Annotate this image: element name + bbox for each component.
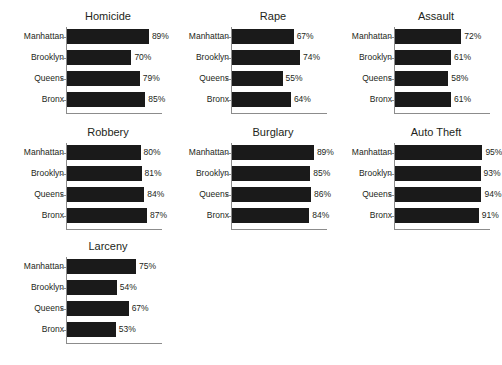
bar-row: Bronx91% <box>328 206 492 227</box>
axis-tick <box>226 216 231 217</box>
bar-value-label: 91% <box>482 210 499 221</box>
bar-row: Brooklyn81% <box>0 164 164 185</box>
facet-title: Homicide <box>0 10 164 23</box>
facet-title-text: Robbery <box>35 126 129 139</box>
category-label: Queens <box>362 189 392 200</box>
bar <box>232 92 291 107</box>
bar-row: Bronx85% <box>0 90 164 111</box>
facet-panel: BurglaryManhattan89%Brooklyn85%Queens86%… <box>165 122 329 240</box>
facet-title: Rape <box>165 10 329 23</box>
axis-tick <box>61 216 66 217</box>
category-label: Brooklyn <box>359 52 392 63</box>
bar <box>67 29 149 44</box>
bar-row: Bronx53% <box>0 320 164 341</box>
bar-value-label: 67% <box>297 31 314 42</box>
category-label: Brooklyn <box>196 52 229 63</box>
facet-title: Robbery <box>0 126 164 139</box>
bar-value-label: 93% <box>484 168 501 179</box>
plot-area: Manhattan75%Brooklyn54%Queens67%Bronx53% <box>0 257 164 349</box>
plot-area: Manhattan89%Brooklyn85%Queens86%Bronx84% <box>165 143 329 235</box>
bar-row: Bronx61% <box>328 90 492 111</box>
facet-title-text: Larceny <box>36 240 127 253</box>
bar <box>395 145 482 160</box>
facet-title-text: Assault <box>366 10 454 23</box>
bar <box>67 208 147 223</box>
bar-row: Queens79% <box>0 69 164 90</box>
bar-row: Brooklyn70% <box>0 48 164 69</box>
bar-value-label: 84% <box>312 210 329 221</box>
facet-panel: Auto TheftManhattan95%Brooklyn93%Queens9… <box>328 122 492 240</box>
bar-value-label: 81% <box>145 168 162 179</box>
bar <box>232 71 283 86</box>
bar <box>395 50 451 65</box>
bar-value-label: 54% <box>120 282 137 293</box>
bar <box>67 280 117 295</box>
category-label: Manhattan <box>352 31 392 42</box>
axis-tick <box>226 79 231 80</box>
bar-value-label: 53% <box>119 324 136 335</box>
facet-panel: RapeManhattan67%Brooklyn74%Queens55%Bron… <box>165 6 329 124</box>
bar <box>67 166 142 181</box>
bar-row: Manhattan67% <box>165 27 329 48</box>
category-label: Queens <box>199 73 229 84</box>
bar-value-label: 64% <box>294 94 311 105</box>
axis-tick <box>389 58 394 59</box>
bar <box>67 92 145 107</box>
bar <box>395 29 461 44</box>
facet-title: Assault <box>328 10 492 23</box>
facet-panel: AssaultManhattan72%Brooklyn61%Queens58%B… <box>328 6 492 124</box>
bar-value-label: 74% <box>303 52 320 63</box>
axis-tick <box>61 195 66 196</box>
bar <box>67 145 141 160</box>
bar <box>395 166 481 181</box>
bar-value-label: 58% <box>451 73 468 84</box>
bar <box>67 187 144 202</box>
bar <box>395 208 479 223</box>
plot-area: Manhattan95%Brooklyn93%Queens94%Bronx91% <box>328 143 492 235</box>
facet-title-text: Homicide <box>33 10 131 23</box>
axis-tick <box>61 174 66 175</box>
bar-value-label: 80% <box>144 147 161 158</box>
axis-tick <box>61 37 66 38</box>
x-axis-line <box>66 113 162 114</box>
bar-value-label: 84% <box>147 189 164 200</box>
axis-tick <box>61 267 66 268</box>
facet-title-text: Auto Theft <box>359 126 462 139</box>
axis-tick <box>226 100 231 101</box>
facet-panel: LarcenyManhattan75%Brooklyn54%Queens67%B… <box>0 236 164 354</box>
axis-tick <box>226 58 231 59</box>
bar-value-label: 55% <box>286 73 303 84</box>
axis-tick <box>61 79 66 80</box>
bar-row: Queens58% <box>328 69 492 90</box>
bar <box>395 92 451 107</box>
axis-tick <box>61 330 66 331</box>
category-label: Brooklyn <box>31 282 64 293</box>
axis-tick <box>61 58 66 59</box>
bar <box>67 50 131 65</box>
facet-title: Auto Theft <box>328 126 492 139</box>
bar-row: Manhattan89% <box>0 27 164 48</box>
bar <box>232 166 310 181</box>
bar-value-label: 72% <box>464 31 481 42</box>
category-label: Manhattan <box>24 147 64 158</box>
axis-tick <box>226 195 231 196</box>
bar-row: Queens94% <box>328 185 492 206</box>
axis-tick <box>226 174 231 175</box>
bar-row: Brooklyn74% <box>165 48 329 69</box>
bar <box>232 145 314 160</box>
bar-value-label: 70% <box>134 52 151 63</box>
axis-tick <box>389 216 394 217</box>
bar <box>232 29 294 44</box>
category-label: Queens <box>34 189 64 200</box>
axis-tick <box>226 37 231 38</box>
bar <box>67 322 116 337</box>
axis-tick <box>389 174 394 175</box>
bar-value-label: 79% <box>143 73 160 84</box>
bar-value-label: 94% <box>484 189 501 200</box>
x-axis-line <box>66 229 162 230</box>
category-label: Manhattan <box>24 31 64 42</box>
bar <box>395 187 481 202</box>
category-label: Manhattan <box>24 261 64 272</box>
bar <box>232 187 311 202</box>
facet-title-text: Burglary <box>201 126 294 139</box>
